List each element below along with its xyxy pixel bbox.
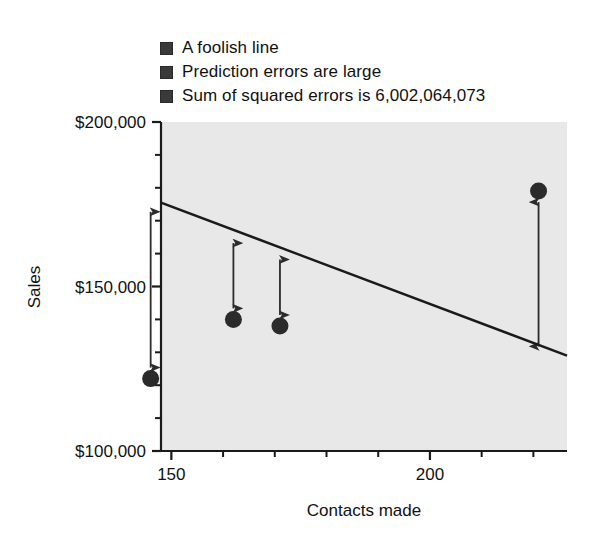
y-axis-tick-label: $150,000 [75, 278, 146, 297]
y-axis-title: Sales [25, 266, 44, 309]
plot-background [161, 122, 567, 451]
y-axis-tick-label: $200,000 [75, 113, 146, 132]
x-axis-tick-label: 200 [416, 465, 444, 484]
data-point-marker [530, 183, 547, 200]
x-axis-tick-label: 150 [157, 465, 185, 484]
data-point-marker [271, 317, 288, 334]
data-point-marker [142, 370, 159, 387]
x-axis-title: Contacts made [307, 501, 421, 520]
plot-canvas: $200,000$150,000$100,000150200 Contacts … [0, 0, 606, 542]
scatter-plot-figure: A foolish line Prediction errors are lar… [0, 0, 606, 542]
y-axis-tick-label: $100,000 [75, 442, 146, 461]
data-point-marker [225, 311, 242, 328]
